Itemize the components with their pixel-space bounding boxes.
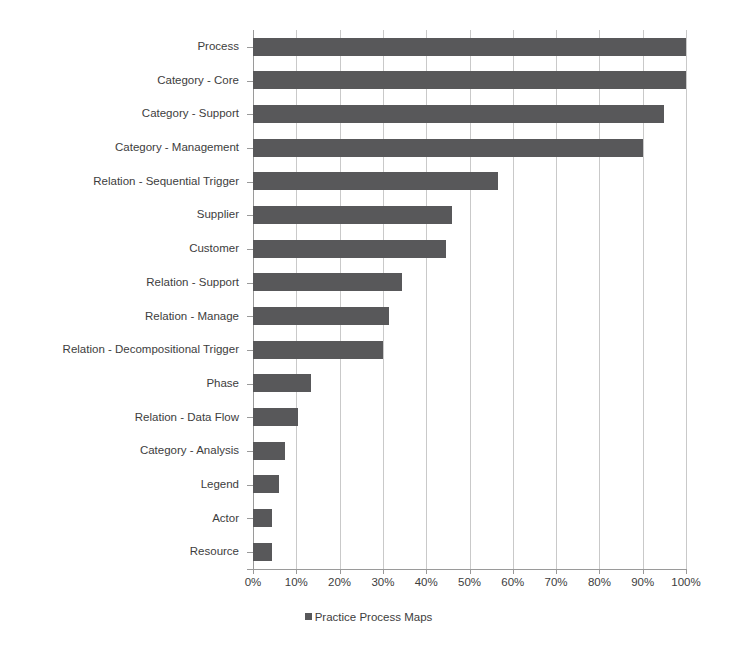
x-axis-tick xyxy=(686,569,687,574)
plot-area xyxy=(253,30,686,569)
y-axis-label: Relation - Decompositional Trigger xyxy=(0,333,246,367)
x-axis-tick xyxy=(643,569,644,574)
bar xyxy=(253,341,383,359)
bar xyxy=(253,206,452,224)
x-axis-label: 70% xyxy=(545,576,568,588)
x-axis-label: 50% xyxy=(458,576,481,588)
bar-row xyxy=(253,367,686,401)
bar xyxy=(253,543,272,561)
y-axis-label: Process xyxy=(0,30,246,64)
y-axis-label: Category - Management xyxy=(0,131,246,165)
y-axis-label: Relation - Manage xyxy=(0,300,246,334)
bar-row xyxy=(253,30,686,64)
bar xyxy=(253,240,446,258)
x-axis-label: 20% xyxy=(328,576,351,588)
y-axis-label: Relation - Sequential Trigger xyxy=(0,165,246,199)
y-axis-label: Relation - Support xyxy=(0,266,246,300)
x-axis-tick xyxy=(296,569,297,574)
y-axis-label: Supplier xyxy=(0,198,246,232)
bar-row xyxy=(253,198,686,232)
x-axis-tick xyxy=(340,569,341,574)
y-axis-label: Relation - Data Flow xyxy=(0,401,246,435)
bar xyxy=(253,172,498,190)
x-axis-label: 0% xyxy=(245,576,262,588)
bar-row xyxy=(253,165,686,199)
bar xyxy=(253,475,279,493)
x-axis-tick xyxy=(513,569,514,574)
y-axis-label: Phase xyxy=(0,367,246,401)
bar xyxy=(253,374,311,392)
x-axis-label: 90% xyxy=(631,576,654,588)
x-axis-label: 40% xyxy=(415,576,438,588)
bar xyxy=(253,273,402,291)
x-axis-tick xyxy=(599,569,600,574)
x-axis-tick xyxy=(383,569,384,574)
bar-row xyxy=(253,333,686,367)
y-axis-label: Legend xyxy=(0,468,246,502)
bar xyxy=(253,139,643,157)
x-axis-label: 100% xyxy=(671,576,700,588)
x-axis-tick xyxy=(426,569,427,574)
bar-series xyxy=(253,30,686,569)
x-axis-tick xyxy=(556,569,557,574)
x-axis-label: 30% xyxy=(371,576,394,588)
y-axis-label: Category - Core xyxy=(0,64,246,98)
legend-label: Practice Process Maps xyxy=(315,611,433,623)
x-axis-label: 80% xyxy=(588,576,611,588)
y-axis-label: Category - Analysis xyxy=(0,434,246,468)
gridline-100pct xyxy=(686,30,687,569)
bar-row xyxy=(253,401,686,435)
bar-row xyxy=(253,300,686,334)
y-axis-label: Resource xyxy=(0,535,246,569)
legend-swatch-icon xyxy=(305,613,312,620)
bar-row xyxy=(253,97,686,131)
y-axis-label: Category - Support xyxy=(0,97,246,131)
bar xyxy=(253,38,686,56)
bar-row xyxy=(253,535,686,569)
bar-row xyxy=(253,232,686,266)
y-axis-label: Actor xyxy=(0,502,246,536)
y-axis-labels: ProcessCategory - CoreCategory - Support… xyxy=(0,30,246,569)
bar xyxy=(253,307,389,325)
bar xyxy=(253,509,272,527)
bar-row xyxy=(253,131,686,165)
bar-row xyxy=(253,434,686,468)
bar-chart: ProcessCategory - CoreCategory - Support… xyxy=(0,0,737,651)
bar-row xyxy=(253,502,686,536)
x-axis-tick xyxy=(470,569,471,574)
chart-legend: Practice Process Maps xyxy=(0,610,737,623)
legend-item: Practice Process Maps xyxy=(305,611,433,623)
bar xyxy=(253,442,285,460)
bar xyxy=(253,71,686,89)
bar-row xyxy=(253,266,686,300)
bar-row xyxy=(253,64,686,98)
y-axis-label: Customer xyxy=(0,232,246,266)
bar-row xyxy=(253,468,686,502)
x-axis-tick xyxy=(253,569,254,574)
bar xyxy=(253,105,664,123)
x-axis-label: 10% xyxy=(285,576,308,588)
bar xyxy=(253,408,298,426)
x-axis-label: 60% xyxy=(501,576,524,588)
